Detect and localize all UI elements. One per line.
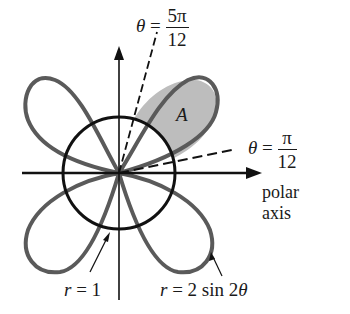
circle-equation-label: r = 1 [64,279,101,301]
polar-axis-label-line1: polar [262,182,299,203]
label-theta-pi-12: θ = π 12 [248,128,297,171]
polar-axis-label: polar axis [262,182,299,224]
vertical-axis-arrowhead [114,46,124,60]
theta-symbol: θ [248,137,257,158]
numerator: 5π [166,6,189,28]
rose-equation-label: r = 2 sin 2θ [160,279,248,301]
equals-sign: = [150,15,161,36]
theta-symbol: θ [238,279,247,300]
circle-label-arrowhead [103,232,110,242]
label-theta-5pi-12: θ = 5π 12 [136,6,189,49]
theta-symbol: θ [136,15,145,36]
r-symbol: r [160,279,167,300]
region-a-label: A [176,104,188,126]
circle-equation-rhs: = 1 [76,279,101,300]
polar-axis-label-line2: axis [262,203,299,224]
rose-label-leader [213,257,222,276]
denominator: 12 [278,150,297,171]
denominator: 12 [166,28,189,49]
fraction: π 12 [278,128,297,171]
equals-sign: = [262,137,273,158]
fraction: 5π 12 [166,6,189,49]
r-symbol: r [64,279,71,300]
numerator: π [278,128,297,150]
rose-equation-rhs: = 2 sin 2 [172,279,238,300]
